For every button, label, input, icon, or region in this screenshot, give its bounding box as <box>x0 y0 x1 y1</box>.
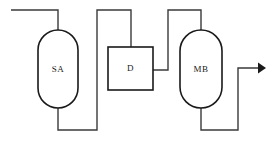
unit-mb[interactable]: MB <box>180 30 222 108</box>
unit-d[interactable]: D <box>108 47 153 90</box>
unit-mb-label: MB <box>194 64 209 74</box>
flow-diagram-canvas: SA D MB <box>0 0 277 141</box>
process-flow-diagram: SA D MB <box>0 0 277 141</box>
unit-sa-label: SA <box>52 64 64 74</box>
unit-d-label: D <box>127 63 134 73</box>
unit-sa[interactable]: SA <box>38 30 78 108</box>
stream-feed-to-sa <box>11 10 58 30</box>
product-outlet-arrow-icon <box>258 63 266 74</box>
